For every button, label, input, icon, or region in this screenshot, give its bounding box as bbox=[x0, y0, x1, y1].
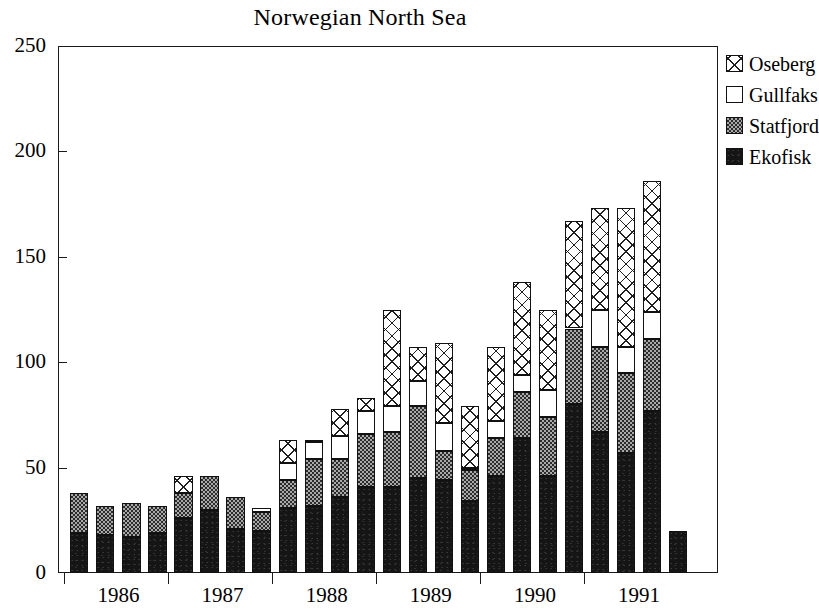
bar-stack bbox=[643, 46, 661, 573]
bar-segment-gullfaks bbox=[539, 390, 557, 417]
bar-stack bbox=[148, 46, 166, 573]
bar-segment-gullfaks bbox=[591, 310, 609, 348]
bar-segment-statfjord bbox=[409, 406, 427, 478]
dotted-swatch bbox=[726, 117, 743, 134]
bar-segment-statfjord bbox=[226, 497, 244, 529]
bar-stack bbox=[331, 46, 349, 573]
bar-segment-oseberg bbox=[565, 221, 583, 329]
bar-segment-ekofisk bbox=[200, 510, 218, 573]
bar-segment-gullfaks bbox=[383, 406, 401, 431]
x-axis-tick-label: 1989 bbox=[410, 583, 452, 607]
bar-segment-oseberg bbox=[591, 208, 609, 309]
bar-segment-oseberg bbox=[383, 310, 401, 407]
bar-segment-statfjord bbox=[539, 417, 557, 476]
bar-segment-gullfaks bbox=[279, 463, 297, 480]
bar-stack bbox=[226, 46, 244, 573]
legend-item-label: Oseberg bbox=[749, 53, 815, 75]
bar-segment-gullfaks bbox=[305, 442, 323, 459]
bar-segment-oseberg bbox=[357, 398, 375, 411]
bar-segment-ekofisk bbox=[148, 533, 166, 573]
bar-segment-ekofisk bbox=[565, 404, 583, 573]
crosshatch-swatch bbox=[726, 55, 743, 72]
bar-stack bbox=[539, 46, 557, 573]
bar-segment-gullfaks bbox=[617, 347, 635, 372]
bar-segment-oseberg bbox=[643, 181, 661, 312]
bar-stack bbox=[305, 46, 323, 573]
bar-segment-statfjord bbox=[70, 493, 88, 533]
bar-segment-statfjord bbox=[617, 373, 635, 453]
bar-segment-statfjord bbox=[513, 392, 531, 438]
bar-segment-statfjord bbox=[383, 432, 401, 487]
bar-stack bbox=[200, 46, 218, 573]
bar-segment-ekofisk bbox=[305, 506, 323, 573]
x-axis-tick-label: 1986 bbox=[97, 583, 139, 607]
x-axis-tick-mark bbox=[584, 573, 585, 584]
bar-segment-ekofisk bbox=[70, 533, 88, 573]
bar-segment-statfjord bbox=[122, 503, 140, 537]
x-axis-tick-mark bbox=[480, 573, 481, 584]
bar-segment-oseberg bbox=[435, 343, 453, 423]
y-axis-tick-mark bbox=[58, 257, 67, 258]
bar-stack bbox=[409, 46, 427, 573]
bar-segment-ekofisk bbox=[487, 476, 505, 573]
bar-segment-statfjord bbox=[591, 347, 609, 431]
bar-segment-gullfaks bbox=[513, 375, 531, 392]
bar-segment-statfjord bbox=[487, 438, 505, 476]
bar-segment-gullfaks bbox=[357, 411, 375, 434]
bar-stack bbox=[669, 46, 687, 573]
bar-segment-gullfaks bbox=[331, 436, 349, 459]
bar-segment-ekofisk bbox=[435, 480, 453, 573]
bar-segment-statfjord bbox=[435, 451, 453, 481]
legend-item-label: Ekofisk bbox=[749, 146, 811, 168]
legend-item-statfjord[interactable]: Statfjord bbox=[726, 110, 806, 141]
bar-segment-ekofisk bbox=[513, 438, 531, 573]
bar-segment-ekofisk bbox=[252, 531, 270, 573]
x-axis-tick-mark bbox=[272, 573, 273, 584]
bar-stack bbox=[513, 46, 531, 573]
x-axis-tick-mark bbox=[64, 573, 65, 584]
bar-stack bbox=[122, 46, 140, 573]
black-swatch bbox=[726, 148, 743, 165]
bar-segment-statfjord bbox=[200, 476, 218, 510]
legend-item-ekofisk[interactable]: Ekofisk bbox=[726, 141, 806, 172]
bar-stack bbox=[383, 46, 401, 573]
bar-stack bbox=[461, 46, 479, 573]
bar-segment-oseberg bbox=[487, 347, 505, 421]
bar-segment-statfjord bbox=[148, 506, 166, 533]
bar-segment-statfjord bbox=[565, 329, 583, 405]
bar-segment-oseberg bbox=[461, 406, 479, 467]
x-axis-tick-mark bbox=[168, 573, 169, 584]
bar-segment-ekofisk bbox=[461, 501, 479, 573]
x-axis-tick-label: 1990 bbox=[514, 583, 556, 607]
y-axis-tick-label: 0 bbox=[36, 562, 47, 583]
bar-segment-ekofisk bbox=[96, 535, 114, 573]
legend-item-label: Statfjord bbox=[749, 115, 819, 137]
bar-segment-ekofisk bbox=[383, 487, 401, 573]
legend-item-oseberg[interactable]: Oseberg bbox=[726, 48, 806, 79]
bar-stack bbox=[279, 46, 297, 573]
bar-segment-ekofisk bbox=[591, 432, 609, 573]
bar-segment-gullfaks bbox=[435, 423, 453, 450]
y-axis-tick-mark bbox=[58, 151, 67, 152]
bar-stack bbox=[70, 46, 88, 573]
bar-stack bbox=[96, 46, 114, 573]
bar-stack bbox=[617, 46, 635, 573]
bar-segment-ekofisk bbox=[643, 411, 661, 573]
bar-segment-oseberg bbox=[617, 208, 635, 347]
bar-segment-statfjord bbox=[279, 480, 297, 507]
bar-segment-gullfaks bbox=[487, 421, 505, 438]
bar-segment-gullfaks bbox=[409, 381, 427, 406]
bars-layer bbox=[58, 46, 718, 573]
bar-segment-oseberg bbox=[279, 440, 297, 463]
bar-segment-oseberg bbox=[409, 347, 427, 381]
bar-segment-ekofisk bbox=[174, 518, 192, 573]
white-swatch bbox=[726, 86, 743, 103]
bar-segment-gullfaks bbox=[643, 312, 661, 339]
y-axis-tick-label: 150 bbox=[15, 246, 47, 267]
legend-item-gullfaks[interactable]: Gullfaks bbox=[726, 79, 806, 110]
bar-segment-statfjord bbox=[357, 434, 375, 487]
bar-segment-statfjord bbox=[174, 493, 192, 518]
bar-stack bbox=[435, 46, 453, 573]
x-axis-tick-mark bbox=[376, 573, 377, 584]
